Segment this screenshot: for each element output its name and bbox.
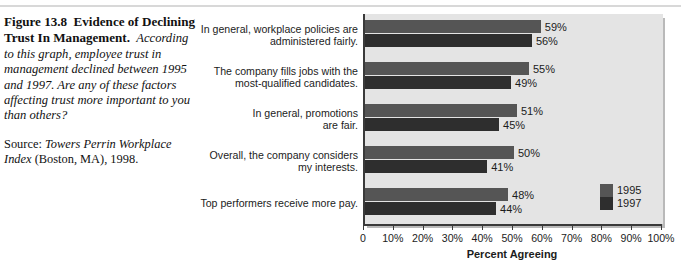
bar-group-1995: 55% xyxy=(365,62,555,75)
chart-row: The company fills jobs with themost-qual… xyxy=(200,56,678,98)
category-label-line: In general, workplace policies are xyxy=(201,23,358,35)
bar-value-label: 41% xyxy=(491,161,513,173)
category-label-line: Top performers receive more pay. xyxy=(200,197,358,209)
row-bars: 50%41% xyxy=(365,140,665,182)
category-label: In general, promotionsare fair. xyxy=(200,98,358,140)
x-axis-tick-label: 30% xyxy=(442,232,463,244)
bar xyxy=(365,20,541,33)
category-label-line: administered fairly. xyxy=(270,35,358,47)
bar-group-1995: 50% xyxy=(365,146,540,159)
bar xyxy=(365,76,511,89)
bar-group-1997: 56% xyxy=(365,34,558,47)
bar xyxy=(365,202,496,215)
x-axis-tick xyxy=(512,224,513,230)
x-axis-tick-label: 10% xyxy=(382,232,403,244)
bar xyxy=(365,62,529,75)
x-axis-tick-label: 20% xyxy=(412,232,433,244)
category-label-line: The company fills jobs with the xyxy=(214,65,358,77)
x-axis-tick-label: 80% xyxy=(591,232,612,244)
category-label: In general, workplace policies areadmini… xyxy=(200,14,358,56)
x-axis-tick xyxy=(542,224,543,230)
chart-row: Overall, the company considersmy interes… xyxy=(200,140,678,182)
figure-source: Source: Towers Perrin Workplace Index (B… xyxy=(4,137,200,168)
x-axis-tick-label: 0 xyxy=(360,232,366,244)
bar-value-label: 55% xyxy=(533,63,555,75)
x-axis-tick xyxy=(363,224,364,230)
x-axis-tick xyxy=(393,224,394,230)
category-label: Top performers receive more pay. xyxy=(200,182,358,224)
chart-row: In general, promotionsare fair.51%45% xyxy=(200,98,678,140)
figure-label: Figure 13.8 xyxy=(4,14,67,29)
legend-swatch-1995 xyxy=(600,184,613,197)
category-label: The company fills jobs with themost-qual… xyxy=(200,56,358,98)
bar xyxy=(365,146,514,159)
row-bars: 59%56% xyxy=(365,14,665,56)
bar-value-label: 56% xyxy=(536,35,558,47)
category-label-line: most-qualified candidates. xyxy=(235,77,358,89)
bar-group-1997: 44% xyxy=(365,202,522,215)
bar xyxy=(365,188,508,201)
x-axis-tick xyxy=(661,224,662,230)
bar-value-label: 51% xyxy=(521,105,543,117)
bar-chart: In general, workplace policies areadmini… xyxy=(200,12,678,274)
x-axis-tick-label: 60% xyxy=(531,232,552,244)
x-axis-tick-label: 50% xyxy=(501,232,522,244)
figure-caption-column: Figure 13.8 Evidence of Declining Trust … xyxy=(4,14,200,168)
bar-group-1995: 48% xyxy=(365,188,534,201)
x-axis-tick-label: 90% xyxy=(621,232,642,244)
x-axis-tick-label: 100% xyxy=(647,232,674,244)
legend-swatch-1997 xyxy=(600,197,613,210)
row-bars: 51%45% xyxy=(365,98,665,140)
bar xyxy=(365,118,499,131)
x-axis-title: Percent Agreeing xyxy=(363,248,661,260)
x-axis-tick-label: 70% xyxy=(561,232,582,244)
legend-label-1995: 1995 xyxy=(617,184,641,197)
category-label-line: Overall, the company considers xyxy=(210,149,358,161)
x-axis-tick xyxy=(601,224,602,230)
bar xyxy=(365,160,487,173)
source-prefix: Source: xyxy=(4,137,42,151)
bar-group-1997: 45% xyxy=(365,118,525,131)
bar xyxy=(365,34,532,47)
chart-row: In general, workplace policies areadmini… xyxy=(200,14,678,56)
category-label-line: my interests. xyxy=(298,161,358,173)
chart-legend: 1995 1997 xyxy=(600,184,641,210)
x-axis: 010%20%30%40%50%60%70%80%90%100% xyxy=(363,224,661,225)
bar-group-1997: 41% xyxy=(365,160,513,173)
bar-value-label: 45% xyxy=(503,119,525,131)
bar-value-label: 48% xyxy=(512,189,534,201)
category-label-line: In general, promotions xyxy=(253,107,358,119)
category-label-line: are fair. xyxy=(323,119,358,131)
bar-value-label: 59% xyxy=(545,21,567,33)
bar-value-label: 49% xyxy=(515,77,537,89)
x-axis-tick xyxy=(572,224,573,230)
x-axis-tick-label: 40% xyxy=(472,232,493,244)
bar-group-1997: 49% xyxy=(365,76,537,89)
bar-value-label: 50% xyxy=(518,147,540,159)
legend-swatches xyxy=(600,184,613,210)
category-label: Overall, the company considersmy interes… xyxy=(200,140,358,182)
source-detail: (Boston, MA), 1998. xyxy=(35,152,139,166)
bar-group-1995: 51% xyxy=(365,104,543,117)
figure-caption: Figure 13.8 Evidence of Declining Trust … xyxy=(4,14,200,124)
legend-label-1997: 1997 xyxy=(617,197,641,210)
x-axis-tick xyxy=(631,224,632,230)
x-axis-tick xyxy=(423,224,424,230)
row-bars: 55%49% xyxy=(365,56,665,98)
bar-value-label: 44% xyxy=(500,203,522,215)
bar-group-1995: 59% xyxy=(365,20,567,33)
page-top-rule xyxy=(0,5,681,7)
x-axis-tick xyxy=(452,224,453,230)
bar xyxy=(365,104,517,117)
legend-labels: 1995 1997 xyxy=(617,184,641,210)
x-axis-tick xyxy=(482,224,483,230)
